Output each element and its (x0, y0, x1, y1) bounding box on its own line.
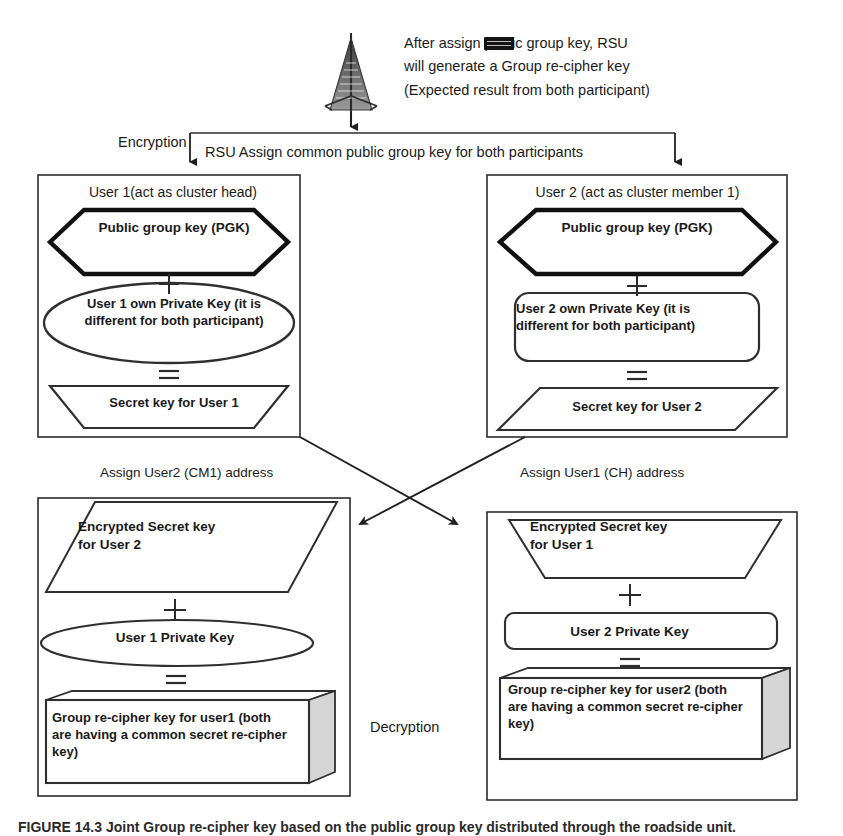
assign-user1-address-label: Assign User1 (CH) address (520, 464, 684, 482)
rsu-bus-label: RSU Assign common public group key for b… (205, 143, 675, 162)
user2-secret-key-label: Secret key for User 2 (520, 398, 754, 415)
user1-to-decrypt-right-arrow (300, 437, 457, 524)
user1-title: User 1(act as cluster head) (48, 183, 298, 201)
user1-pgk-label: Public group key (PGK) (60, 219, 288, 237)
decrypt-left-result-label: Group re-cipher key for user1 (both are … (52, 709, 292, 760)
user1-private-key-label: User 1 own Private Key (it is different … (58, 295, 290, 329)
user2-pgk-label: Public group key (PGK) (512, 219, 762, 237)
decrypt-right-result-label: Group re-cipher key for user2 (both are … (508, 681, 753, 732)
top-note-text: After assign public group key, RSU will … (404, 32, 834, 102)
decrypt-right-private-key-label: User 2 Private Key (512, 623, 747, 641)
user1-equals-operator (159, 371, 179, 378)
decrypt-left-equals-operator (166, 676, 186, 683)
user2-equals-operator (627, 372, 647, 379)
user1-secret-key-label: Secret key for User 1 (62, 394, 286, 411)
figure-caption: FIGURE 14.3 Joint Group re-cipher key ba… (18, 818, 828, 836)
encryption-label: Encryption (118, 133, 187, 152)
decryption-label: Decryption (370, 718, 439, 737)
decrypt-left-plus-operator (164, 599, 186, 621)
user2-to-decrypt-left-arrow (360, 437, 525, 524)
radio-tower-icon (325, 33, 377, 112)
user2-title: User 2 (act as cluster member 1) (495, 183, 780, 201)
black-key-chip-icon (484, 37, 514, 50)
assign-user2-address-label: Assign User2 (CM1) address (100, 464, 273, 482)
decrypt-left-private-key-label: User 1 Private Key (60, 629, 290, 647)
decrypt-right-plus-operator (619, 584, 641, 606)
decrypt-right-equals-operator (620, 659, 640, 666)
user2-private-key-label: User 2 own Private Key (it is different … (516, 300, 758, 334)
decrypt-left-encrypted-label: Encrypted Secret key for User 2 (78, 518, 278, 554)
decrypt-right-encrypted-label: Encrypted Secret key for User 1 (530, 518, 740, 554)
